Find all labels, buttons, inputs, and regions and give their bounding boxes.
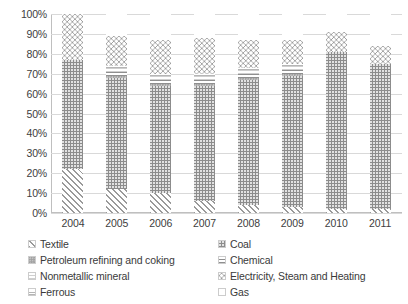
bar-segment xyxy=(370,46,391,64)
bar-segment xyxy=(194,84,215,86)
bar-segment xyxy=(194,86,215,201)
x-axis-tick-label: 2010 xyxy=(314,217,358,229)
bar-segment xyxy=(106,14,127,36)
bar-segment xyxy=(194,76,215,80)
y-axis-tick-label: 100% xyxy=(21,9,47,20)
bar-segment xyxy=(62,60,83,169)
bar-segment xyxy=(282,76,303,207)
bar-segment xyxy=(150,74,171,76)
bar-segment xyxy=(194,14,215,38)
x-axis-labels: 20042005200620072008200920102011 xyxy=(51,215,402,235)
bar-segment xyxy=(150,193,171,213)
legend-item-label: Electricity, Steam and Heating xyxy=(230,270,365,283)
bar-segment xyxy=(282,66,303,70)
legend-item-label: Coal xyxy=(230,238,251,251)
bar-segment xyxy=(282,207,303,213)
bar-segment xyxy=(62,169,83,213)
bar-segment xyxy=(282,74,303,76)
gridline xyxy=(51,213,402,214)
bar-segment xyxy=(370,209,391,213)
bar-segment xyxy=(238,74,259,78)
x-axis-tick-label: 2006 xyxy=(139,217,183,229)
gridline xyxy=(51,173,402,174)
bar-segment xyxy=(370,14,391,46)
bar-column xyxy=(238,14,259,213)
y-axis-tick-label: 60% xyxy=(27,88,47,99)
bar-segment xyxy=(106,78,127,189)
legend-item-label: Textile xyxy=(40,238,69,251)
legend-item-label: Nonmetallic mineral xyxy=(40,270,129,283)
legend-item-label: Gas xyxy=(230,286,249,299)
y-axis-labels: 0%10%20%30%40%50%60%70%80%90%100% xyxy=(0,0,47,213)
legend-swatch-icon xyxy=(28,288,36,296)
gridline xyxy=(51,14,402,15)
bar-segment xyxy=(282,14,303,40)
bar-segment xyxy=(282,64,303,66)
legend-item[interactable]: Electricity, Steam and Heating xyxy=(218,268,408,284)
y-axis-tick-label: 20% xyxy=(27,168,47,179)
bar-segment xyxy=(238,205,259,213)
gridline xyxy=(51,193,402,194)
bar-segment xyxy=(194,74,215,76)
y-axis-tick-label: 0% xyxy=(32,208,47,219)
legend-item[interactable]: Petroleum refining and coking xyxy=(28,252,218,268)
legend-swatch-icon xyxy=(218,272,226,280)
bar-segment xyxy=(282,40,303,64)
bar-segment xyxy=(150,84,171,86)
bar-column xyxy=(326,14,347,213)
legend-swatch-icon xyxy=(28,256,36,264)
bar-column xyxy=(370,14,391,213)
bar-segment xyxy=(106,68,127,72)
legend-column-left: TextilePetroleum refining and cokingNonm… xyxy=(28,236,218,300)
y-axis-tick-label: 80% xyxy=(27,49,47,60)
gridline xyxy=(51,153,402,154)
legend-swatch-icon xyxy=(28,240,36,248)
x-axis-tick-label: 2011 xyxy=(358,217,402,229)
legend-item[interactable]: Nonmetallic mineral xyxy=(28,268,218,284)
stacked-bar-chart: 0%10%20%30%40%50%60%70%80%90%100% 200420… xyxy=(0,0,408,304)
bar-segment xyxy=(326,32,347,52)
bar-column xyxy=(282,14,303,213)
legend-item[interactable]: Gas xyxy=(218,284,408,300)
bar-segment xyxy=(106,76,127,78)
bar-segment xyxy=(62,14,83,60)
gridline xyxy=(51,34,402,35)
y-axis-tick-label: 70% xyxy=(27,68,47,79)
x-axis-tick-label: 2004 xyxy=(51,217,95,229)
legend-item-label: Chemical xyxy=(230,254,273,267)
bar-segment xyxy=(150,80,171,84)
bar-segment xyxy=(282,70,303,74)
legend-swatch-icon xyxy=(218,256,226,264)
bar-segment xyxy=(194,38,215,74)
bar-segment xyxy=(150,40,171,74)
legend-swatch-icon xyxy=(218,240,226,248)
legend-item[interactable]: Coal xyxy=(218,236,408,252)
bar-segment xyxy=(106,36,127,66)
legend-item[interactable]: Ferrous xyxy=(28,284,218,300)
bar-segment xyxy=(106,72,127,76)
bar-segment xyxy=(370,64,391,209)
plot-area xyxy=(51,14,402,213)
bar-segment xyxy=(106,189,127,213)
bar-column xyxy=(194,14,215,213)
bar-segment xyxy=(194,80,215,84)
legend-column-right: CoalChemicalElectricity, Steam and Heati… xyxy=(218,236,408,300)
gridline xyxy=(51,114,402,115)
legend-swatch-icon xyxy=(28,272,36,280)
y-axis-tick-label: 90% xyxy=(27,29,47,40)
bar-column xyxy=(106,14,127,213)
chart-legend: TextilePetroleum refining and cokingNonm… xyxy=(0,236,408,302)
x-axis-tick-label: 2008 xyxy=(227,217,271,229)
bar-segment xyxy=(238,68,259,70)
bar-segment xyxy=(106,66,127,68)
bar-segment xyxy=(326,209,347,213)
bar-segment xyxy=(194,201,215,213)
legend-item[interactable]: Chemical xyxy=(218,252,408,268)
legend-item-label: Ferrous xyxy=(40,286,75,299)
legend-item-label: Petroleum refining and coking xyxy=(40,254,175,267)
bar-column xyxy=(150,14,171,213)
gridline xyxy=(51,54,402,55)
legend-item[interactable]: Textile xyxy=(28,236,218,252)
x-axis-tick-label: 2007 xyxy=(183,217,227,229)
y-axis-tick-label: 30% xyxy=(27,148,47,159)
